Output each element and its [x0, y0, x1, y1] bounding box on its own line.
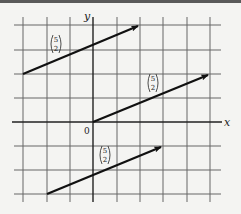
- svg-text:5: 5: [151, 75, 155, 83]
- vector-3-label: 5 2: [100, 146, 110, 164]
- svg-text:5: 5: [103, 147, 107, 155]
- vector-2-label: 5 2: [148, 74, 158, 92]
- svg-text:5: 5: [54, 36, 58, 44]
- svg-text:2: 2: [54, 45, 58, 53]
- vector-diagram: y x 0 5 2 5 2 5 2: [0, 0, 241, 214]
- svg-text:2: 2: [151, 84, 155, 92]
- svg-text:2: 2: [103, 156, 107, 164]
- x-axis-label: x: [224, 116, 231, 129]
- origin-label: 0: [84, 126, 90, 136]
- y-axis-label: y: [83, 10, 91, 23]
